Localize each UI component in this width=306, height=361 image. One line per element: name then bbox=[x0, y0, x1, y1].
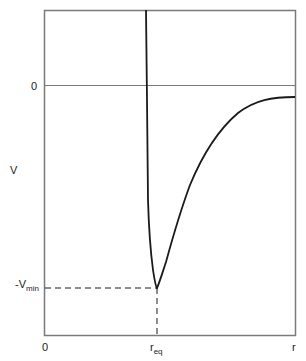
y-zero-label: 0 bbox=[31, 80, 37, 92]
potential-energy-plot bbox=[0, 0, 306, 361]
potential-curve bbox=[146, 10, 295, 288]
vmin-label-main: -V bbox=[15, 278, 26, 290]
x-origin-label: 0 bbox=[42, 341, 48, 353]
req-label-sub: eq bbox=[154, 347, 163, 356]
y-axis-label: V bbox=[10, 164, 17, 176]
plot-frame bbox=[45, 11, 296, 336]
vmin-label-sub: min bbox=[26, 284, 39, 293]
vmin-label: -Vmin bbox=[15, 278, 39, 292]
req-label: req bbox=[150, 341, 163, 355]
x-axis-label: r bbox=[292, 341, 296, 353]
